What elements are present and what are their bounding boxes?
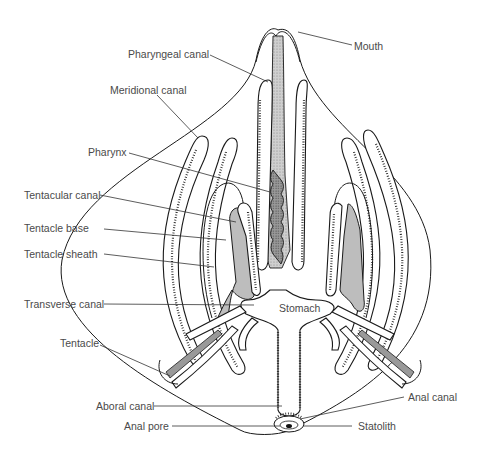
label-tentacle-base: Tentacle base [24,222,89,234]
ctenophore-anatomy-diagram: Mouth Pharyngeal canal Meridional canal … [0,0,480,459]
label-pharynx: Pharynx [88,146,127,158]
pharyngeal-canal-right [292,80,307,270]
label-meridional-canal: Meridional canal [110,84,186,96]
tentacular-branch-right [320,318,340,350]
label-stomach: Stomach [279,302,320,314]
statolith-dot [286,424,292,428]
label-tentacle: Tentacle [60,337,99,349]
label-statolith: Statolith [358,420,396,432]
label-anal-canal: Anal canal [408,391,457,403]
label-pharyngeal-canal: Pharyngeal canal [128,48,209,60]
label-anal-pore: Anal pore [124,420,169,432]
label-tentacle-sheath: Tentacle sheath [24,248,98,260]
label-transverse-canal: Transverse canal [24,298,104,310]
label-mouth: Mouth [354,40,383,52]
pharynx-folds [271,170,284,264]
tentacular-branch-left [239,318,259,350]
label-aboral-canal: Aboral canal [96,400,154,412]
label-tentacular-canal: Tentacular canal [24,189,100,201]
